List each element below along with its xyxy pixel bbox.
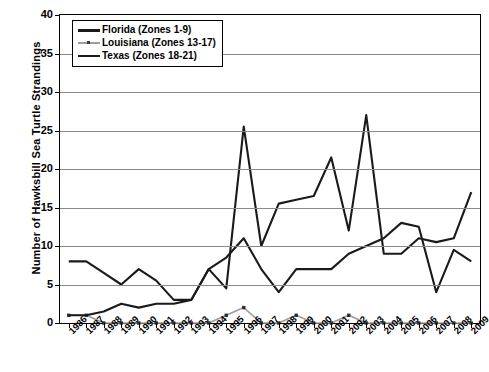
y-axis-tick-label: 25 [19,125,53,136]
y-axis-tick-mark [55,92,60,93]
y-axis-tick-label: 10 [19,240,53,251]
legend-item-florida: Florida (Zones 1-9) [78,24,216,37]
gridline [60,92,480,93]
gridline [60,208,480,209]
gridline [60,169,480,170]
y-axis-title: Number of Hawksbill Sea Turtle Stranding… [30,18,42,298]
y-axis-tick-label: 30 [19,86,53,97]
y-axis-tick-mark [55,246,60,247]
legend-swatch-louisiana [78,38,100,48]
legend-label-florida: Florida (Zones 1-9) [102,24,191,37]
y-axis-tick-mark [55,131,60,132]
gridline [60,285,480,286]
gridline [60,131,480,132]
legend-label-louisiana: Louisiana (Zones 13-17) [102,37,216,50]
y-axis-tick-mark [55,15,60,16]
series-line-florida [69,223,472,300]
y-axis-tick-mark [55,285,60,286]
y-axis-tick-label: 0 [19,317,53,328]
y-axis-tick-label: 15 [19,202,53,213]
y-axis-tick-mark [55,54,60,55]
legend-swatch-texas [78,51,100,61]
chart-container: Number of Hawksbill Sea Turtle Stranding… [0,0,489,372]
legend: Florida (Zones 1-9) Louisiana (Zones 13-… [72,20,223,67]
y-axis-tick-label: 40 [19,9,53,20]
series-marker-louisiana [347,314,350,317]
y-axis-tick-label: 20 [19,163,53,174]
y-axis-tick-label: 35 [19,48,53,59]
legend-swatch-florida [78,25,100,35]
gridline [60,246,480,247]
y-axis-tick-mark [55,208,60,209]
y-axis-tick-mark [55,323,60,324]
y-axis-tick-label: 5 [19,279,53,290]
legend-item-louisiana: Louisiana (Zones 13-17) [78,37,216,50]
legend-label-texas: Texas (Zones 18-21) [102,50,197,63]
y-axis-tick-mark [55,169,60,170]
legend-item-texas: Texas (Zones 18-21) [78,50,216,63]
series-marker-louisiana [242,306,245,309]
